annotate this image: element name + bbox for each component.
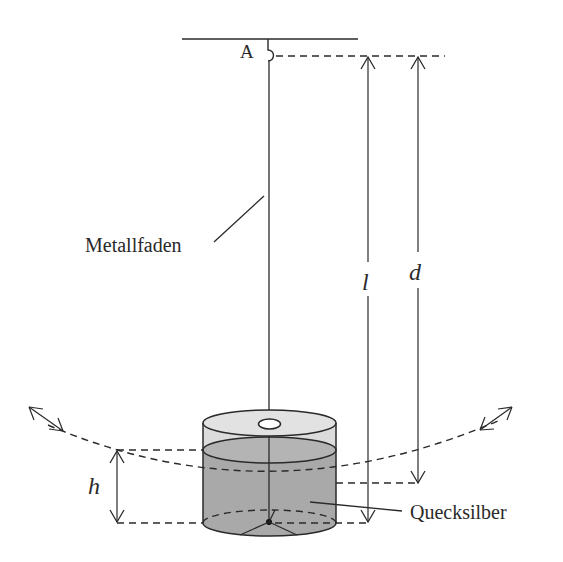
pivot-label: A <box>240 41 254 62</box>
mercury-cylinder <box>203 410 336 536</box>
height-h-label: h <box>88 473 100 499</box>
distance-d-label: d <box>409 259 422 285</box>
swing-arrow-left <box>29 407 63 431</box>
mercury-label: Quecksilber <box>410 501 507 523</box>
pivot-hook <box>268 39 274 61</box>
thread-label: Metallfaden <box>85 234 182 256</box>
swing-arrow-right <box>480 407 512 430</box>
pendulum-diagram: A Metallfaden l d h Quecksilber <box>0 0 563 562</box>
length-l-label: l <box>362 269 369 295</box>
thread-leader-line <box>214 196 264 242</box>
